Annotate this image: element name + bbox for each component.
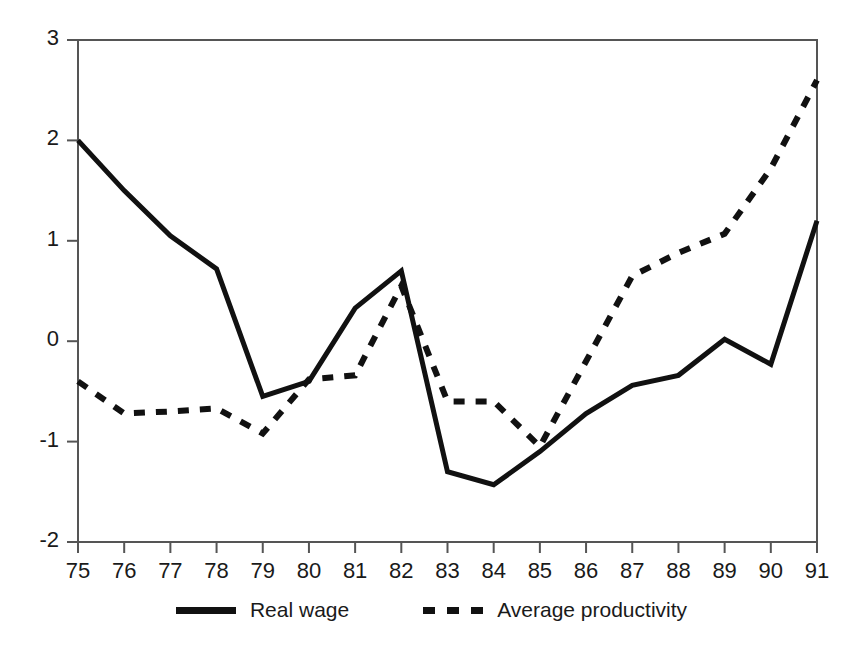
x-tick-label: 78 <box>195 558 239 584</box>
y-tick-label: -2 <box>19 527 59 553</box>
legend-swatch-solid-line-icon <box>176 607 236 614</box>
chart-figure: 3210-1-2 7576777879808182838485868788899… <box>0 0 863 656</box>
data-series-group <box>78 80 817 485</box>
x-tick-label: 89 <box>703 558 747 584</box>
y-tick-label: 3 <box>19 25 59 51</box>
x-tick-label: 82 <box>379 558 423 584</box>
legend-label: Real wage <box>250 598 349 622</box>
y-tick-label: -1 <box>19 427 59 453</box>
series-line-real-wage <box>78 140 817 484</box>
chart-legend: Real wageAverage productivity <box>0 598 863 622</box>
legend-item-average-productivity: Average productivity <box>423 598 687 622</box>
series-line-average-productivity <box>78 80 817 446</box>
x-tick-label: 87 <box>610 558 654 584</box>
x-tick-label: 80 <box>287 558 331 584</box>
x-tick-label: 75 <box>56 558 100 584</box>
legend-item-real-wage: Real wage <box>176 598 349 622</box>
y-tick-label: 0 <box>19 326 59 352</box>
x-tick-label: 83 <box>426 558 470 584</box>
x-tick-label: 88 <box>656 558 700 584</box>
y-axis-ticks <box>67 40 78 542</box>
x-tick-label: 91 <box>795 558 839 584</box>
x-tick-label: 76 <box>102 558 146 584</box>
x-tick-label: 90 <box>749 558 793 584</box>
legend-label: Average productivity <box>497 598 687 622</box>
y-tick-label: 1 <box>19 226 59 252</box>
x-tick-label: 81 <box>333 558 377 584</box>
x-tick-label: 85 <box>518 558 562 584</box>
x-tick-label: 79 <box>241 558 285 584</box>
legend-swatch-dashed-line-icon <box>423 607 483 614</box>
x-tick-label: 77 <box>148 558 192 584</box>
x-axis-ticks <box>78 542 817 553</box>
y-tick-label: 2 <box>19 125 59 151</box>
x-tick-label: 84 <box>472 558 516 584</box>
x-tick-label: 86 <box>564 558 608 584</box>
